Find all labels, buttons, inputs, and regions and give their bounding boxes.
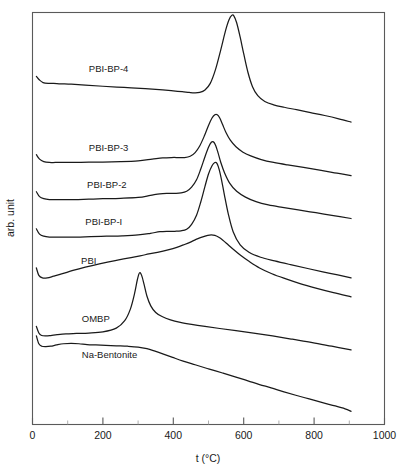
x-axis-tick-label: 200 [94,429,112,441]
x-axis-tick-label: 800 [305,429,323,441]
curve-label-pbi-bp-2: PBI-BP-2 [87,179,127,190]
curve-label-ombp: OMBP [82,313,110,324]
dta-thermal-analysis-figure: 02004006008001000 t (°C) arb. unit PBI-B… [0,0,407,473]
chart-canvas: 02004006008001000 t (°C) arb. unit PBI-B… [0,0,407,473]
curve-label-na-bentonite: Na-Bentonite [82,349,137,360]
x-axis-tick-label: 600 [235,429,253,441]
curve-label-pbi-bp-3: PBI-BP-3 [89,142,129,153]
curve-label-pbi-bp-4: PBI-BP-4 [89,63,129,74]
x-axis-tick-label: 400 [165,429,183,441]
y-axis-title: arb. unit [4,199,16,237]
curve-label-pbi: PBI [81,255,96,266]
x-axis-tick-label: 0 [30,429,36,441]
x-axis-tick-label: 1000 [373,429,397,441]
x-axis-title: t (°C) [196,452,221,464]
curve-label-pbi-bp-i: PBI-BP-I [85,216,122,227]
